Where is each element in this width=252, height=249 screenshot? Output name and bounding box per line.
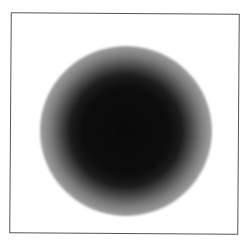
image-frame <box>9 12 240 235</box>
radial-gradient-blob <box>39 45 212 216</box>
